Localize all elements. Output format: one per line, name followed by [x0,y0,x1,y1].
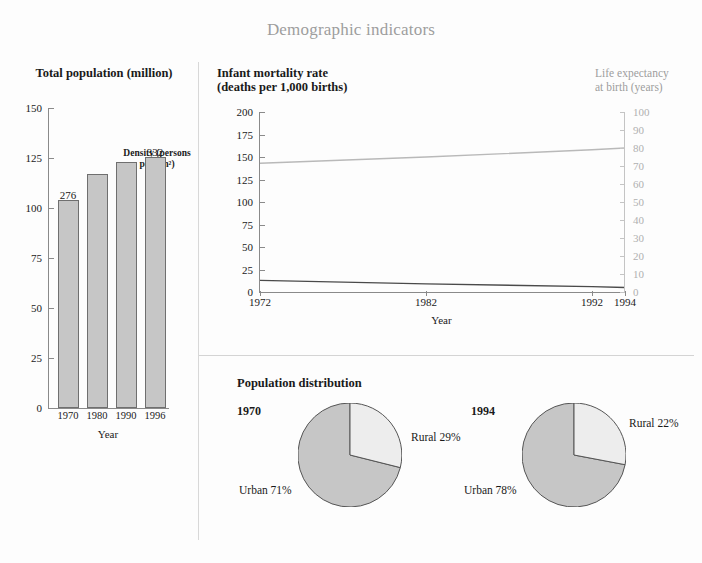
pie-svg-1970 [298,403,402,507]
pie-label-urban-1970: Urban 71% [239,484,292,496]
pie-panel-title: Population distribution [237,376,362,390]
line-chart-title-line2: (deaths per 1,000 births) [217,80,477,94]
bar-value-1970: 276 [48,189,88,201]
bar-chart-title: Total population (million) [14,66,194,80]
line-plot-area: 0 25 50 75 100 125 150 175 200 1972 1982… [259,112,625,293]
total-population-bar-chart: Total population (million) Density (pers… [0,62,198,462]
bar-plot-area: 0 25 50 75 100 125 150 276 332 1970 1980… [48,108,169,409]
infant-mortality-line [260,280,625,287]
life-ytick-10: 10 [625,268,644,280]
pie-year-1970: 1970 [237,404,261,419]
bar-ytick-75: 75 [31,252,49,264]
life-expectancy-axis: 0 10 20 30 40 50 60 70 80 90 100 [624,112,625,292]
line-xtick-1972: 1972 [237,296,283,308]
line-xtick-1982: 1982 [403,296,449,308]
demographic-indicators-figure: Demographic indicators Total population … [0,0,702,563]
line-ytick-150: 150 [237,151,261,163]
bar-ytick-100: 100 [26,202,50,214]
life-ytick-30: 30 [625,232,644,244]
line-ytick-50: 50 [242,241,260,253]
pie-slice-rural-1994 [574,403,626,465]
line-chart-title-line1: Infant mortality rate [217,66,477,80]
bar-ytick-150: 150 [26,102,50,114]
line-ytick-125: 125 [237,174,261,186]
pie-svg-1994 [522,403,626,507]
line-xaxis-label: Year [259,314,624,326]
line-ytick-25: 25 [242,264,260,276]
bar-xtick-1996: 1996 [135,410,175,421]
line-ytick-200: 200 [237,106,261,118]
bar-ytick-125: 125 [26,152,50,164]
bar-ytick-25: 25 [31,352,49,364]
life-expectancy-axis-title-line2: at birth (years) [595,80,702,94]
life-ytick-80: 80 [625,142,644,154]
pie-label-urban-1994: Urban 78% [464,484,517,496]
line-ytick-175: 175 [237,129,261,141]
life-expectancy-axis-title: Life expectancy at birth (years) [595,66,702,94]
line-ytick-75: 75 [242,219,260,231]
pie-chart-1994[interactable] [522,403,626,507]
bar-xaxis-label: Year [48,428,168,440]
pie-label-rural-1994: Rural 22% [629,417,679,429]
line-ytick-100: 100 [237,196,261,208]
bar-1970[interactable] [58,200,79,408]
page-title: Demographic indicators [0,20,702,40]
pie-chart-1970[interactable] [298,403,402,507]
line-chart-title: Infant mortality rate (deaths per 1,000 … [217,66,477,94]
line-series-svg [260,112,625,292]
life-expectancy-line [260,148,625,163]
life-ytick-40: 40 [625,214,644,226]
population-distribution-panel: Population distribution 1970 Rural 29% U… [199,356,702,563]
pie-label-rural-1970: Rural 29% [411,431,461,443]
life-ytick-70: 70 [625,160,644,172]
pie-year-1994: 1994 [471,404,495,419]
bar-ytick-50: 50 [31,302,49,314]
bar-1990[interactable] [116,162,137,408]
bar-value-1996: 332 [135,146,175,158]
life-expectancy-axis-title-line1: Life expectancy [595,66,702,80]
life-ytick-100: 100 [625,106,650,118]
life-ytick-0: 0 [625,286,639,298]
life-ytick-60: 60 [625,178,644,190]
bar-1996[interactable] [145,157,166,408]
infant-mortality-line-chart: Infant mortality rate (deaths per 1,000 … [199,62,702,355]
bar-1980[interactable] [87,174,108,408]
life-ytick-90: 90 [625,124,644,136]
life-ytick-50: 50 [625,196,644,208]
life-ytick-20: 20 [625,250,644,262]
